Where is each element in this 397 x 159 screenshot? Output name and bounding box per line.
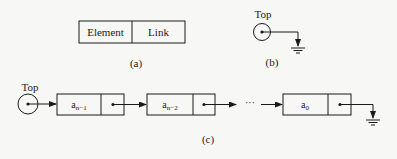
- node-element: an−1: [71, 99, 87, 112]
- panel-b-caption: (b): [266, 56, 279, 69]
- panel-a-node-structure: Element Link (a): [79, 21, 185, 70]
- node-element: an−2: [162, 99, 178, 112]
- top-pointer-label: Top: [255, 8, 272, 20]
- null-ground-icon: [366, 120, 380, 125]
- list-node: an−2: [147, 94, 236, 115]
- panel-b-empty-stack: Top (b): [254, 8, 306, 69]
- list-node: a0: [283, 94, 380, 125]
- panel-a-caption: (a): [130, 57, 143, 70]
- linked-stack-diagram: Element Link (a) Top (b) Top an−1: [0, 0, 397, 159]
- top-pointer-label: Top: [22, 81, 39, 93]
- panel-c-caption: (c): [202, 133, 215, 146]
- link-field-label: Link: [148, 26, 169, 38]
- panel-c-linked-stack: Top an−1 an−2 ··· a0: [18, 81, 380, 146]
- node-element: a0: [301, 99, 309, 112]
- element-field-label: Element: [87, 26, 124, 38]
- list-node: an−1: [57, 94, 146, 115]
- null-ground-icon: [291, 48, 305, 53]
- ellipsis: ···: [245, 97, 255, 108]
